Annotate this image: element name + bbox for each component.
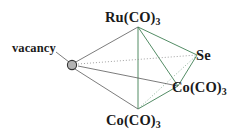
vertex-label-vacancy-text: vacancy <box>12 41 56 55</box>
vertex-label-cobalt-right-subscript: 3 <box>222 86 227 97</box>
bond-ru-se <box>138 27 197 55</box>
vertex-label-ruthenium: Ru(CO)3 <box>105 10 161 25</box>
bond-vacancy-se <box>78 55 197 64</box>
vertex-label-cobalt-bottom: Co(CO)3 <box>106 113 161 128</box>
vertex-label-ruthenium-subscript: 3 <box>156 16 161 27</box>
vertex-label-cobalt-right: Co(CO)3 <box>172 80 227 95</box>
vacancy-site-marker <box>67 60 76 69</box>
vertex-label-cobalt-right-text: Co(CO) <box>172 79 222 95</box>
vertex-label-cobalt-bottom-subscript: 3 <box>156 119 161 130</box>
bond-vacancy-co-bottom <box>75 69 138 109</box>
vertex-label-ruthenium-text: Ru(CO) <box>105 9 156 25</box>
bond-vacancy-ru <box>74 27 138 63</box>
cluster-diagram: Ru(CO)3 Se Co(CO)3 Co(CO)3 vacancy <box>0 0 237 140</box>
vacancy-leader-line <box>56 52 69 62</box>
vertex-label-selenium: Se <box>196 48 211 63</box>
bond-ru-co-right <box>138 27 178 86</box>
bond-vacancy-co-right <box>78 66 178 86</box>
vertex-label-cobalt-bottom-text: Co(CO) <box>106 112 156 128</box>
vertex-label-selenium-text: Se <box>196 47 211 63</box>
vertex-label-vacancy: vacancy <box>12 42 56 55</box>
